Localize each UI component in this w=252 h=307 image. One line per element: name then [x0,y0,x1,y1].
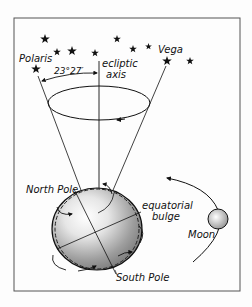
north-pole-label: North Pole [26,184,78,195]
star-icon [186,57,194,64]
moon-label: Moon [188,229,215,240]
angle-arc [42,73,97,81]
moon [208,209,228,229]
polaris-star-icon [31,64,41,73]
ecliptic-axis-label-1: ecliptic [102,58,138,69]
earth [52,184,143,274]
equatorial-bulge-label-2: bulge [152,211,180,222]
star-icon [53,48,61,55]
star-icon [113,35,121,42]
vega-star-icon [162,56,172,65]
equatorial-bulge-label-1: equatorial [142,200,193,211]
ecliptic-axis-label-2: axis [106,69,126,80]
polaris-label: Polaris [19,53,52,64]
star-icon [145,43,152,49]
precession-diagram: Polaris Vega ecliptic axis 23°27′ North … [0,0,252,307]
star-icon [40,34,50,43]
star-icon [129,45,137,52]
vega-label: Vega [158,44,183,55]
south-pole-label: South Pole [116,272,169,283]
star-icon [67,46,77,55]
star-icon [91,49,99,56]
